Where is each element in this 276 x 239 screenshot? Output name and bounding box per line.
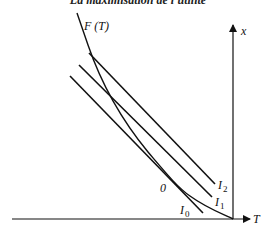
label-i0: I0 — [179, 203, 190, 219]
label-i1: I1 — [214, 195, 225, 211]
label-i2: I2 — [217, 178, 228, 194]
indifference-curve-i0 — [70, 76, 203, 213]
indifference-curve-i1 — [79, 65, 212, 197]
frontier-curve-f — [77, 13, 233, 219]
utility-maximization-diagram: T x F (T) I2 I1 I0 0 — [0, 0, 276, 239]
optimum-point-label: 0 — [160, 181, 166, 195]
frontier-label: F (T) — [83, 19, 109, 33]
indifference-curve-i2 — [89, 53, 215, 184]
x-axis-label: x — [240, 24, 247, 38]
t-axis-label: T — [253, 212, 261, 226]
